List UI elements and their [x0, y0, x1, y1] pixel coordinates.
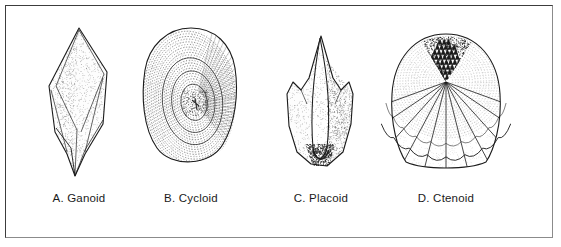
cycloid-scale-illustration: [126, 20, 256, 185]
plate-caption-ctenoid: D. Ctenoid: [381, 192, 511, 204]
plate-caption-cycloid: B. Cycloid: [126, 192, 256, 204]
fish-scale-types-figure: A. GanoidB. CycloidC. PlacoidD. Ctenoid: [0, 0, 561, 247]
scale-plate-cycloid: B. Cycloid: [126, 20, 256, 225]
ganoid-scale-illustration: [14, 20, 144, 185]
plate-caption-ganoid: A. Ganoid: [14, 192, 144, 204]
ctenoid-scale-illustration: [381, 20, 511, 185]
scale-plate-ctenoid: D. Ctenoid: [381, 20, 511, 225]
plate-row: A. GanoidB. CycloidC. PlacoidD. Ctenoid: [6, 6, 554, 239]
scale-plate-placoid: C. Placoid: [256, 20, 386, 225]
scale-plate-ganoid: A. Ganoid: [14, 20, 144, 225]
placoid-scale-illustration: [256, 20, 386, 185]
figure-border-frame: A. GanoidB. CycloidC. PlacoidD. Ctenoid: [5, 5, 553, 238]
plate-caption-placoid: C. Placoid: [256, 192, 386, 204]
